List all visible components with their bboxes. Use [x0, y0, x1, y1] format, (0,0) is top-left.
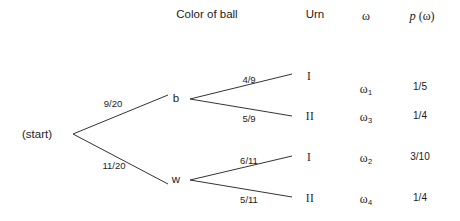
node-start: (start): [22, 129, 52, 141]
header-p-omega: p (ω): [409, 10, 434, 23]
urn-label-row-4: II: [306, 193, 314, 205]
edge-b-to-urn-1: [190, 74, 292, 99]
omega-label-row-4: ω4: [360, 193, 373, 206]
edge-label-6-11: 6/11: [240, 156, 258, 166]
urn-label-row-3: I: [307, 152, 311, 164]
tree-edges: [0, 0, 460, 221]
omega-symbol-1: ω: [360, 82, 368, 96]
omega-subscript-2: 3: [368, 116, 373, 125]
node-white-ball: w: [172, 174, 180, 186]
edge-label-9-20: 9/20: [104, 99, 123, 109]
urn-label-row-2: II: [306, 111, 314, 123]
probability-row-2: 1/4: [413, 111, 427, 121]
edge-label-11-20: 11/20: [102, 161, 125, 171]
header-omega: ω: [362, 10, 370, 22]
omega-label-row-1: ω1: [360, 83, 373, 96]
probability-tree-diagram: Color of ball Urn ω p (ω) (start) b w 9/…: [0, 0, 460, 221]
omega-symbol-3: ω: [360, 151, 368, 165]
omega-label-row-3: ω2: [360, 152, 373, 165]
edge-start-to-w: [73, 134, 168, 184]
header-p-omega-arg: (ω): [416, 9, 435, 23]
omega-subscript-1: 1: [368, 88, 373, 97]
probability-row-4: 1/4: [413, 193, 427, 203]
omega-subscript-4: 4: [368, 198, 373, 207]
omega-symbol-4: ω: [360, 192, 368, 206]
edge-label-4-9: 4/9: [242, 75, 255, 85]
edge-label-5-11: 5/11: [240, 195, 258, 205]
probability-row-1: 1/5: [413, 82, 427, 92]
edge-b-to-urn-2: [190, 99, 292, 116]
header-urn: Urn: [306, 9, 325, 21]
omega-label-row-2: ω3: [360, 111, 373, 124]
urn-label-row-1: I: [307, 71, 311, 83]
probability-row-3: 3/10: [410, 152, 429, 162]
header-color-of-ball: Color of ball: [176, 9, 237, 21]
node-black-ball: b: [173, 93, 179, 105]
edge-label-5-9: 5/9: [242, 114, 255, 124]
omega-symbol-2: ω: [360, 110, 368, 124]
omega-subscript-3: 2: [368, 157, 373, 166]
